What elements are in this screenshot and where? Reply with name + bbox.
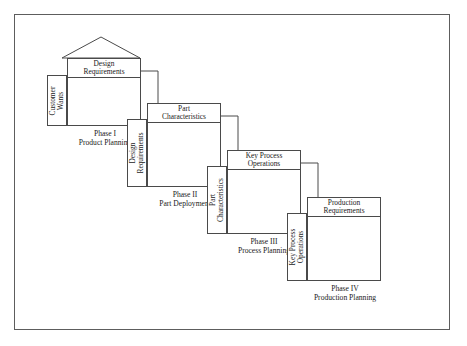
phase-3-input-strip: Part Characteristics [207, 166, 227, 234]
phase-4-output-band: Production Requirements [307, 197, 381, 217]
phase-2-input-strip: Design Requirements [127, 119, 147, 187]
phase-3-output-band: Key Process Operations [227, 150, 301, 170]
phase-4-input-label: Key Process Operations [289, 229, 306, 266]
phase-1-output-band: Design Requirements [67, 58, 141, 78]
phase-1-input-label: Customer Wants [49, 86, 66, 115]
phase-1-output-line2: Requirements [83, 68, 124, 76]
phase-1-input-line2: Wants [57, 86, 65, 115]
phase-4-caption-line1: Phase IV [287, 284, 403, 293]
phase-4-caption-line2: Production Planning [287, 293, 403, 302]
phase-4-caption: Phase IV Production Planning [287, 284, 403, 303]
house-of-quality-roof-icon [61, 36, 141, 59]
phase-1-input-strip: Customer Wants [47, 75, 67, 126]
phase-4-output-line2: Requirements [323, 207, 364, 215]
phase-3-output-line2: Operations [246, 160, 283, 168]
phase-2-input-line2: Requirements [137, 132, 145, 173]
phase-4-input-strip: Key Process Operations [287, 213, 307, 281]
phase-3-input-line2: Characteristics [217, 178, 225, 222]
figure-canvas: Customer Wants Design Requirements Phase… [0, 0, 467, 346]
phase-2-output-band: Part Characteristics [147, 103, 221, 123]
phase-2-output-line2: Characteristics [162, 113, 206, 121]
phase-3-input-label: Part Characteristics [209, 178, 226, 222]
figure-frame: Customer Wants Design Requirements Phase… [14, 14, 450, 330]
phase-4-input-line2: Operations [297, 229, 305, 266]
phase-2-input-label: Design Requirements [129, 132, 146, 173]
